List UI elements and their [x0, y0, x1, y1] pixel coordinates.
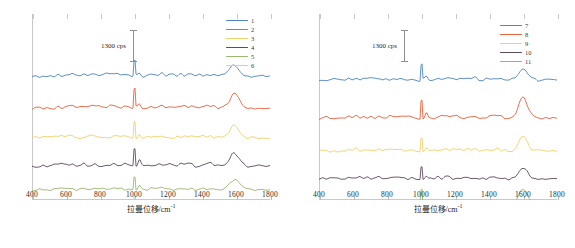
x-tick-label: 1200: [447, 190, 463, 199]
x-tick-label: 800: [381, 190, 393, 199]
x-axis-title-text: 拉曼位移/cm: [127, 205, 171, 214]
spectrum-trace-undefined: [319, 167, 557, 180]
x-tick-label: 1600: [515, 190, 531, 199]
legend-swatch-icon: [226, 38, 248, 40]
legend-item-label: 4: [251, 44, 254, 51]
x-tick-top: [271, 14, 272, 19]
spectrum-trace-undefined: [32, 122, 270, 139]
legend-swatch-icon: [500, 43, 522, 45]
x-tick-label: 1400: [481, 190, 497, 199]
legend-item-label: 10: [525, 49, 532, 56]
x-tick-label: 1000: [126, 190, 142, 199]
x-tick-label: 1600: [228, 190, 244, 199]
legend-item-label: 7: [525, 22, 528, 29]
right-spectra-panel: 1300 cps 7891011 拉曼位移/cm-1 4006008001000…: [287, 0, 574, 248]
spectrum-trace-undefined: [32, 88, 270, 109]
legend-item-5[interactable]: 5: [226, 53, 254, 60]
x-tick-label: 1800: [262, 190, 278, 199]
legend-item-label: 5: [251, 53, 254, 60]
right-legend: 7891011: [500, 22, 532, 65]
spectrum-trace-undefined: [319, 136, 557, 152]
legend-item-9[interactable]: 9: [500, 40, 532, 47]
legend-item-label: 11: [525, 58, 531, 65]
x-axis-title-exponent: -1: [171, 203, 176, 209]
legend-item-8[interactable]: 8: [500, 31, 532, 38]
x-tick-label: 1000: [413, 190, 429, 199]
x-tick-label: 1400: [194, 190, 210, 199]
legend-item-1[interactable]: 1: [226, 17, 254, 24]
x-axis-title-text: 拉曼位移/cm: [414, 205, 458, 214]
x-tick-label: 1800: [549, 190, 565, 199]
legend-item-label: 1: [251, 17, 254, 24]
spectrum-trace-undefined: [319, 64, 557, 82]
legend-item-4[interactable]: 4: [226, 44, 254, 51]
right-x-axis-title: 拉曼位移/cm-1: [319, 203, 557, 214]
legend-swatch-icon: [500, 61, 522, 63]
legend-swatch-icon: [226, 20, 248, 22]
left-legend: 123456: [226, 17, 254, 69]
legend-item-10[interactable]: 10: [500, 49, 532, 56]
legend-swatch-icon: [226, 65, 248, 67]
left-x-axis-title: 拉曼位移/cm-1: [32, 203, 270, 214]
legend-item-2[interactable]: 2: [226, 26, 254, 33]
legend-item-label: 3: [251, 35, 254, 42]
left-spectra-panel: 1300 cps 123456 拉曼位移/cm-1 40060080010001…: [0, 0, 287, 248]
legend-swatch-icon: [226, 29, 248, 31]
legend-swatch-icon: [500, 25, 522, 27]
x-axis-title-exponent: -1: [458, 203, 463, 209]
x-tick-label: 400: [313, 190, 325, 199]
legend-item-label: 8: [525, 31, 528, 38]
legend-item-3[interactable]: 3: [226, 35, 254, 42]
raman-spectra-figure: 1300 cps 123456 拉曼位移/cm-1 40060080010001…: [0, 0, 575, 248]
legend-item-label: 2: [251, 26, 254, 33]
spectrum-trace-undefined: [32, 149, 270, 168]
legend-swatch-icon: [500, 34, 522, 36]
x-tick-label: 800: [94, 190, 106, 199]
legend-item-label: 9: [525, 40, 528, 47]
x-tick-label: 600: [60, 190, 72, 199]
x-tick-label: 600: [347, 190, 359, 199]
legend-item-6[interactable]: 6: [226, 62, 254, 69]
legend-item-7[interactable]: 7: [500, 22, 532, 29]
legend-item-label: 6: [251, 62, 254, 69]
spectrum-trace-undefined: [32, 177, 270, 191]
legend-swatch-icon: [226, 47, 248, 49]
x-tick-label: 400: [26, 190, 38, 199]
legend-swatch-icon: [500, 52, 522, 54]
legend-swatch-icon: [226, 56, 248, 58]
x-tick-top: [558, 14, 559, 19]
x-tick-label: 1200: [160, 190, 176, 199]
legend-item-11[interactable]: 11: [500, 58, 532, 65]
spectrum-trace-undefined: [319, 97, 557, 120]
